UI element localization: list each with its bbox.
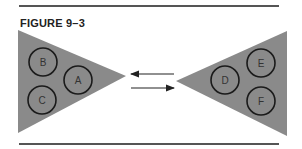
- svg-text:F: F: [258, 96, 264, 107]
- bottom-rule: [19, 143, 279, 145]
- diagram: B A C D E F: [0, 0, 302, 149]
- svg-text:D: D: [221, 75, 228, 86]
- svg-text:C: C: [38, 95, 45, 106]
- svg-text:B: B: [40, 57, 47, 68]
- svg-text:E: E: [258, 58, 265, 69]
- svg-text:A: A: [75, 75, 82, 86]
- right-triangle: [176, 31, 287, 136]
- left-triangle: [18, 30, 126, 133]
